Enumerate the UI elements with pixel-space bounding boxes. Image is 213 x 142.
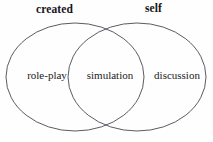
region-label-role-play: role-play — [19, 70, 75, 81]
region-label-simulation: simulation — [79, 70, 141, 81]
set-header-self: self — [145, 3, 162, 15]
region-label-discussion: discussion — [148, 70, 206, 81]
venn-diagram-figure: created self role-play simulation discus… — [0, 0, 213, 142]
set-header-created: created — [36, 4, 73, 16]
